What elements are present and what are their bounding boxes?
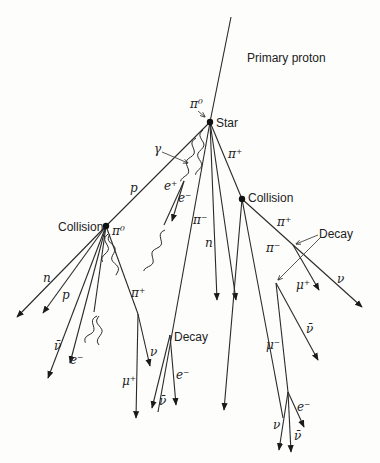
track-pi-plus-decay-mu (136, 314, 138, 418)
decay-pointer-1 (296, 235, 318, 244)
primary-proton-label: Primary proton (247, 51, 326, 65)
particle-label: γ (154, 142, 162, 156)
track-final-nu (279, 392, 288, 450)
particle-label: ν̄ (54, 339, 61, 353)
track-n-left (17, 226, 106, 317)
particle-label: π⁻ (265, 241, 280, 255)
track-final-nubar (288, 392, 291, 452)
wavy-gamma-left-4 (97, 316, 102, 345)
particle-label: e⁺ (164, 179, 177, 193)
track-pi-plus-decay-nu (138, 314, 150, 366)
node-collision-right-dot (239, 196, 245, 202)
pi0-pointer (198, 111, 205, 117)
particle-tracks (17, 17, 362, 452)
decay-pointer-2 (278, 238, 320, 280)
particle-label: π⁺ (227, 147, 242, 161)
particle-cascade-diagram: Primary proton Star Collision Collision … (0, 0, 380, 463)
particle-label: n (43, 271, 51, 285)
track-right-coll-down-1 (224, 199, 242, 410)
particle-label: π⁰ (111, 224, 125, 238)
track-pi-plus-left (106, 226, 138, 314)
particle-label: π⁺ (276, 215, 291, 229)
track-pi-left-2 (70, 226, 106, 363)
star-label: Star (216, 116, 238, 130)
particle-label: p (62, 288, 70, 302)
particle-label: μ⁻ (266, 338, 280, 352)
particle-label: π⁺ (130, 286, 145, 300)
particle-label: ν (273, 418, 280, 432)
wavy-gamma-2 (181, 138, 196, 181)
track-pi-left-3 (94, 226, 106, 312)
track-p-left (43, 226, 106, 313)
particle-label: π⁰ (189, 97, 203, 111)
particle-label: p (130, 181, 138, 195)
gamma-pointer (162, 152, 188, 163)
decay-right-label: Decay (319, 227, 353, 241)
particle-label: μ⁺ (296, 278, 310, 292)
wavy-gamma-3 (144, 230, 165, 271)
wavy-gamma-1 (195, 130, 204, 175)
particle-label: e⁻ (176, 368, 189, 382)
particle-label: μ⁺ (122, 374, 136, 388)
node-star-dot (207, 119, 213, 125)
track-primary-proton (210, 17, 231, 122)
particle-label: ν (337, 272, 344, 286)
decay-middle-label: Decay (174, 330, 208, 344)
track-pi-minus-right (242, 199, 283, 418)
cascade-svg: Primary proton Star Collision Collision … (0, 0, 380, 463)
particle-label: ν̄ (159, 394, 166, 408)
particle-label: ν̄ (294, 429, 301, 443)
particle-label: e⁻ (70, 353, 83, 367)
particle-label: ν̄ (306, 322, 313, 336)
particle-label: π⁻ (192, 213, 207, 227)
particle-label: ν (150, 345, 157, 359)
collision-left-label: Collision (58, 220, 103, 234)
particle-label: e⁻ (178, 191, 191, 205)
wavy-gamma-left-3 (85, 316, 97, 343)
node-collision-left-dot (103, 223, 109, 229)
particle-label: n (205, 236, 213, 250)
collision-right-label: Collision (248, 191, 293, 205)
particle-label: e⁻ (297, 400, 310, 414)
